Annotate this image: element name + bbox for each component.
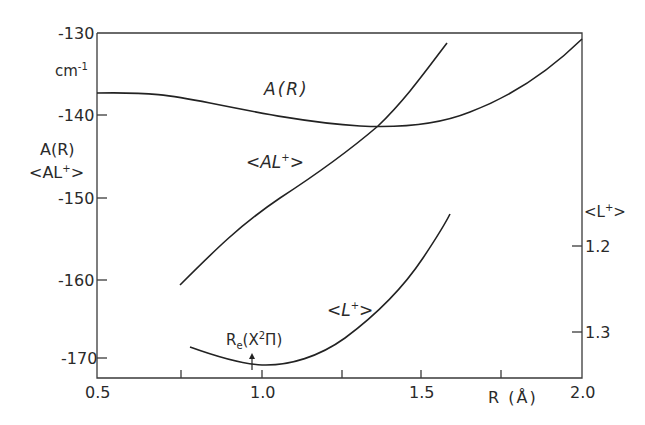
re-annotation: Re(X2Π) — [226, 330, 282, 351]
curve-label-A-R: A(R) — [264, 79, 309, 99]
ylabel-AL: <AL+> — [29, 163, 84, 182]
xtick-2.0: 2.0 — [570, 383, 595, 402]
xtick-1.5: 1.5 — [409, 383, 434, 402]
curve-A-R — [97, 39, 582, 126]
y2label: <L+> — [584, 202, 626, 221]
xtick-0.5: 0.5 — [85, 383, 110, 402]
xtick-1.0: 1.0 — [250, 383, 275, 402]
y2tick-1.3: 1.3 — [585, 323, 610, 342]
curve-label-AL: <AL+> — [246, 152, 304, 172]
curve-label-L: <L+> — [327, 300, 373, 320]
axis-frame — [97, 33, 582, 378]
ytick-150: -150 — [58, 189, 94, 208]
ytick-130: -130 — [58, 24, 94, 43]
y-unit: cm-1 — [55, 61, 88, 80]
xlabel: R (Å) — [488, 388, 538, 407]
ytick-140: -140 — [58, 106, 94, 125]
ytick-160: -160 — [58, 271, 94, 290]
ylabel-A: A(R) — [40, 140, 75, 159]
curve-AL-plus — [180, 43, 447, 285]
ytick-170: -170 — [61, 349, 97, 368]
y2tick-1.2: 1.2 — [585, 237, 610, 256]
